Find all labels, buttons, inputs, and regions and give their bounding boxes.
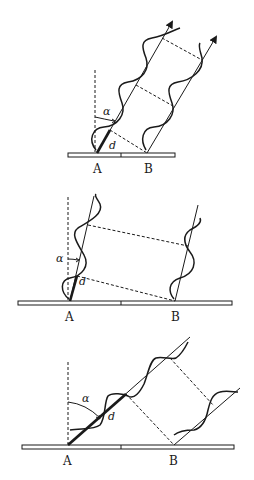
path-difference-segment bbox=[68, 394, 126, 445]
wavefront-line bbox=[170, 358, 214, 406]
wavefront-line bbox=[126, 394, 174, 445]
label-point-b: B bbox=[169, 455, 178, 467]
ray-b bbox=[147, 37, 216, 153]
panel-bottom bbox=[22, 337, 240, 449]
panel-middle bbox=[18, 194, 232, 305]
wave-a bbox=[70, 342, 188, 430]
label-distance-d: d bbox=[108, 411, 115, 422]
angle-arc bbox=[68, 259, 78, 260]
label-point-b: B bbox=[144, 163, 153, 175]
label-angle-alpha: α bbox=[103, 106, 110, 117]
wavefront-line bbox=[136, 85, 173, 106]
panel-top bbox=[68, 22, 216, 157]
plate bbox=[18, 301, 232, 305]
label-point-a: A bbox=[63, 455, 72, 467]
label-distance-d: d bbox=[79, 276, 86, 287]
wavefront-line bbox=[88, 225, 188, 246]
label-point-a: A bbox=[65, 311, 74, 323]
path-difference-segment bbox=[70, 276, 77, 301]
label-distance-d: d bbox=[109, 140, 116, 151]
label-point-a: A bbox=[93, 163, 102, 175]
label-angle-alpha: α bbox=[56, 253, 63, 264]
wavefront-line bbox=[162, 38, 202, 60]
ray-b bbox=[175, 205, 198, 301]
wavefront-line bbox=[77, 276, 175, 301]
label-angle-alpha: α bbox=[82, 393, 89, 404]
wave-a bbox=[92, 28, 180, 150]
wave-b bbox=[143, 43, 202, 150]
plate bbox=[22, 445, 234, 449]
diagram-canvas bbox=[0, 0, 254, 480]
label-point-b: B bbox=[171, 311, 180, 323]
